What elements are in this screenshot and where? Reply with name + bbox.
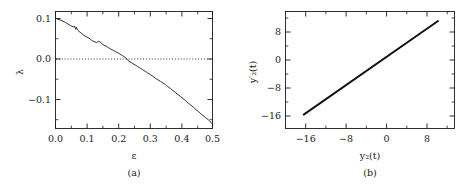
y-ticklabel-b-0: 8 [275, 26, 281, 37]
x-ticklabel-a-1: 0.1 [80, 133, 95, 144]
x-major-ticks-a [56, 124, 213, 129]
panel-caption-b: (b) [363, 167, 377, 178]
y-major-ticks-b [286, 18, 291, 116]
y-ticklabel-b-3: −16 [261, 110, 281, 121]
x-major-ticks-top-b [306, 12, 448, 17]
panel-a-svg: 0.1 0.0 −0.1 0.0 0.1 0.2 0.3 0.4 0.5 ε λ… [0, 0, 235, 185]
plot-frame-a [56, 12, 213, 129]
y-ticklabel-a-1: 0.0 [36, 53, 51, 64]
lyapunov-curve [56, 18, 213, 124]
x-ticklabel-a-5: 0.5 [205, 133, 220, 144]
x-axis-label-a: ε [132, 150, 137, 161]
y-ticklabel-b-1: 0 [275, 54, 281, 65]
y-axis-label-b: y′₂(t) [247, 61, 258, 85]
y-ticklabel-a-0: 0.1 [36, 13, 51, 24]
panel-a: 0.1 0.0 −0.1 0.0 0.1 0.2 0.3 0.4 0.5 ε λ… [0, 0, 235, 185]
panel-caption-a: (a) [127, 167, 140, 178]
x-axis-label-b: y₂(t) [359, 150, 380, 161]
panel-b: 8 0 −8 −16 −16 −8 0 8 y₂(t) y′₂(t) (b) [235, 0, 469, 185]
y-major-ticks-a [56, 19, 61, 120]
y-ticklabel-b-2: −8 [267, 82, 281, 93]
x-ticklabel-a-2: 0.2 [111, 133, 126, 144]
x-ticklabel-b-0: −16 [296, 133, 316, 144]
x-ticklabel-a-3: 0.3 [143, 133, 158, 144]
x-ticklabel-b-2: 0 [384, 133, 390, 144]
figure-container: 0.1 0.0 −0.1 0.0 0.1 0.2 0.3 0.4 0.5 ε λ… [0, 0, 469, 185]
plot-frame-b [286, 12, 455, 129]
y-major-ticks-right-a [208, 19, 213, 120]
panel-b-svg: 8 0 −8 −16 −16 −8 0 8 y₂(t) y′₂(t) (b) [235, 0, 469, 185]
x-major-ticks-top-a [56, 12, 213, 17]
y-axis-label-a: λ [14, 69, 25, 75]
synchronization-line [304, 21, 438, 115]
x-ticklabel-b-3: 8 [424, 133, 430, 144]
x-major-ticks-b [286, 124, 448, 129]
x-ticklabel-a-4: 0.4 [174, 133, 189, 144]
y-major-ticks-right-b [450, 18, 455, 116]
x-ticklabel-a-0: 0.0 [48, 133, 63, 144]
y-ticklabel-a-2: −0.1 [28, 94, 51, 105]
x-ticklabel-b-1: −8 [339, 133, 353, 144]
